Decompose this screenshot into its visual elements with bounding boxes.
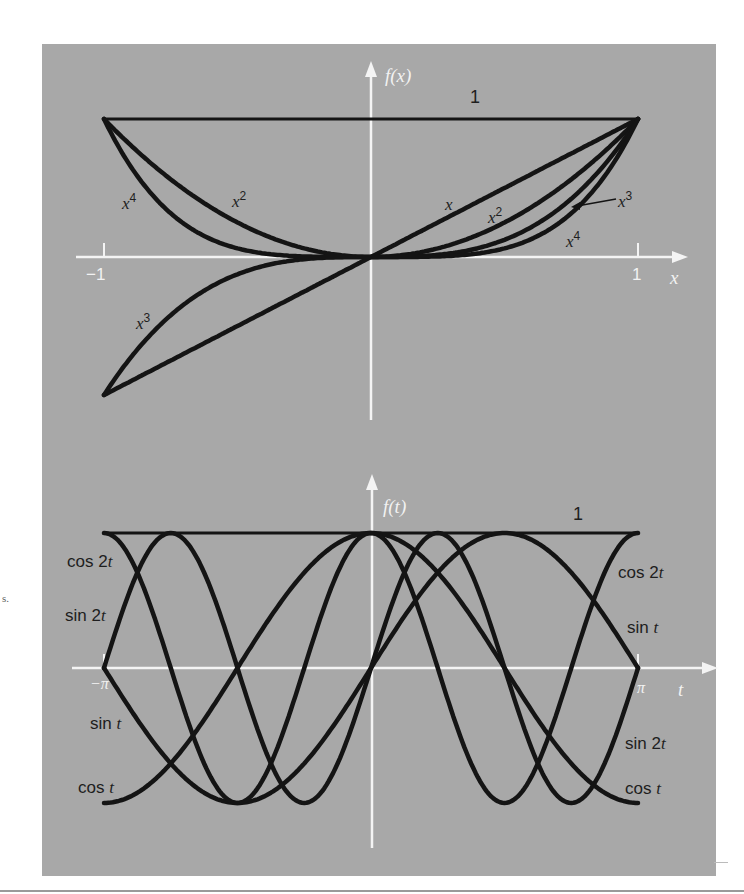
bottom-tick-pi-label: π <box>637 680 645 696</box>
label-x3-right: x3 <box>618 190 632 210</box>
label-x4-left: x4 <box>122 192 136 212</box>
label-x4-right: x4 <box>566 230 580 250</box>
top-y-axis-label: f(x) <box>385 66 411 85</box>
bottom-line-one-label: 1 <box>573 505 583 523</box>
label-cos2t-left: cos 2t <box>67 553 112 570</box>
label-x2-left: x2 <box>232 190 246 210</box>
top-plot-axes <box>76 61 688 420</box>
label-sin2t-right: sin 2t <box>625 735 666 752</box>
bottom-tick-negpi-label: −π <box>90 676 109 692</box>
label-sint-right: sin t <box>627 619 658 636</box>
label-cos2t-right: cos 2t <box>618 564 663 581</box>
top-x-axis-label: x <box>670 268 678 287</box>
bottom-y-axis-label: f(t) <box>383 497 406 516</box>
top-tick-1-label: 1 <box>632 266 641 283</box>
label-sint-left: sin t <box>90 715 121 732</box>
top-tick-neg1-label: −1 <box>86 266 105 283</box>
label-x-right: x <box>445 196 453 213</box>
label-x3-left: x3 <box>136 312 150 332</box>
plots-canvas <box>0 0 744 894</box>
top-line-one-label: 1 <box>470 88 480 106</box>
label-sin2t-left: sin 2t <box>65 607 106 624</box>
label-cost-right: cos t <box>625 780 661 797</box>
bottom-x-axis-label: t <box>678 680 683 699</box>
label-cost-left: cos t <box>78 779 114 796</box>
label-x2-right: x2 <box>488 206 502 226</box>
